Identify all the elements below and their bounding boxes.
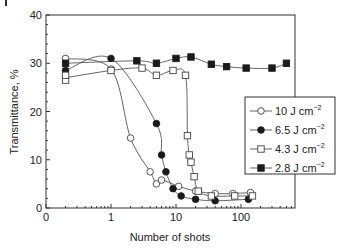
data-point [191, 173, 197, 179]
data-point [208, 61, 214, 67]
data-point [186, 152, 192, 158]
x-tick-label: 1 [108, 211, 114, 223]
data-point [127, 135, 134, 142]
series-line-2 [66, 68, 253, 196]
data-point [182, 72, 188, 78]
data-point [153, 60, 159, 66]
data-point [243, 65, 249, 71]
legend-label-exponent: −2 [317, 161, 325, 168]
data-point [108, 55, 115, 62]
legend-label-exponent: −2 [317, 142, 325, 149]
data-point [283, 60, 289, 66]
y-axis-title: Transmittance, % [8, 69, 20, 154]
y-tick-label: 0 [36, 202, 42, 214]
y-tick-label: 10 [30, 154, 42, 166]
legend-marker [258, 146, 264, 152]
data-point [208, 193, 214, 199]
data-point [158, 177, 165, 184]
data-point [188, 159, 194, 165]
legend-marker [258, 127, 265, 134]
data-point [62, 72, 68, 78]
y-tick-label: 30 [30, 57, 42, 69]
legend-marker [258, 165, 264, 171]
data-point [188, 54, 194, 60]
data-point [153, 120, 160, 127]
legend-marker [258, 108, 265, 115]
data-point [184, 132, 190, 138]
legend-label-exponent: −2 [317, 123, 325, 130]
data-point [147, 169, 154, 176]
data-point [170, 185, 177, 192]
data-point [139, 65, 145, 71]
data-point [223, 63, 229, 69]
data-point [249, 193, 255, 199]
data-point [158, 152, 165, 159]
x-tick-label: 0 [43, 211, 49, 223]
data-point [232, 193, 238, 199]
x-tick-label: 10 [170, 211, 182, 223]
data-point [192, 196, 199, 203]
data-point [108, 67, 114, 73]
data-point [269, 65, 275, 71]
data-point [153, 72, 159, 78]
x-axis-title: Number of shots [130, 231, 211, 243]
data-point [163, 169, 170, 176]
x-tick-label: 100 [232, 211, 250, 223]
transmittance-chart: 0102030400110100 Transmittance, % Number… [0, 0, 339, 248]
data-point [173, 55, 179, 61]
y-tick-label: 20 [30, 106, 42, 118]
data-point [62, 60, 68, 66]
y-tick-label: 40 [30, 9, 42, 21]
legend-label-exponent: −2 [314, 104, 322, 111]
data-point [195, 188, 201, 194]
data-point [170, 67, 176, 73]
legend: 10 J cm−26.5 J cm−24.3 J cm−22.8 J cm−2 [245, 97, 335, 174]
data-point [134, 58, 140, 64]
data-point [178, 193, 185, 200]
